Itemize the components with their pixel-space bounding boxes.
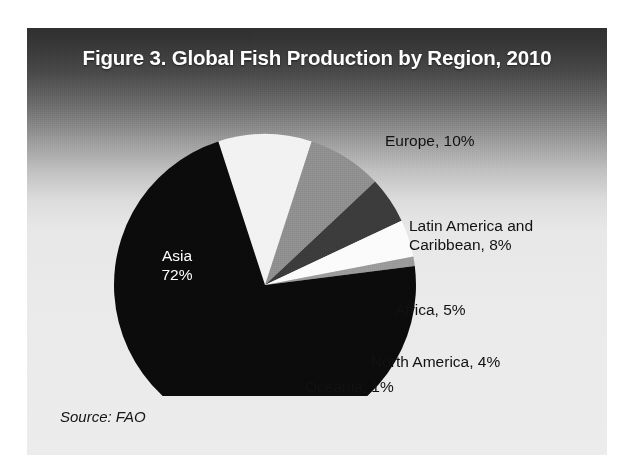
pie-chart: Europe, 10% Latin America and Caribbean,…: [27, 28, 607, 455]
source-note: Source: FAO: [60, 408, 146, 425]
pie-label-north-america: North America, 4%: [371, 352, 500, 371]
pie-label-europe: Europe, 10%: [385, 131, 475, 150]
pie-label-africa: Africa, 5%: [395, 300, 466, 319]
pie-label-latin-america-caribbean: Latin America and Caribbean, 8%: [409, 216, 533, 254]
pie-label-asia-value: 72%: [134, 265, 220, 284]
pie-label-asia: Asia 72%: [134, 246, 220, 284]
figure-panel: Figure 3. Global Fish Production by Regi…: [27, 28, 607, 455]
pie-label-latin-america-line1: Latin America and: [409, 217, 533, 234]
pie-label-oceania: Oceania, 1%: [305, 377, 394, 396]
pie-label-latin-america-line2: Caribbean, 8%: [409, 236, 512, 253]
pie-label-asia-name: Asia: [134, 246, 220, 265]
